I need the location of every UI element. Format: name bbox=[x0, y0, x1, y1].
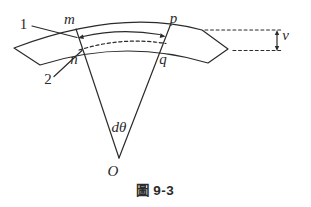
label-point-p: p bbox=[169, 10, 178, 26]
label-center-O: O bbox=[108, 163, 119, 179]
curved-beam-diagram: 1 2 m n p q dθ O v 圖 9-3 bbox=[0, 0, 311, 207]
fiber-double-arrow-arc bbox=[83, 32, 160, 37]
neutral-axis-dashed-arc bbox=[79, 41, 166, 50]
arrowheads bbox=[78, 30, 279, 51]
label-callout-2: 2 bbox=[44, 71, 52, 87]
cross-section-mn-line bbox=[76, 29, 119, 158]
figure-caption: 圖 9-3 bbox=[136, 183, 175, 198]
label-callout-1: 1 bbox=[20, 16, 28, 32]
label-point-n: n bbox=[70, 51, 78, 67]
beam-element-outline bbox=[14, 22, 228, 65]
fiber-arrow-right-icon bbox=[160, 33, 166, 38]
cross-section-pq-line bbox=[119, 26, 170, 158]
label-point-q: q bbox=[159, 51, 167, 67]
label-angle-dtheta: dθ bbox=[112, 119, 128, 135]
leader-line-2 bbox=[54, 51, 82, 77]
label-offset-v: v bbox=[282, 27, 289, 43]
figure-9-3: 1 2 m n p q dθ O v 圖 9-3 bbox=[0, 0, 311, 207]
diagram-linework bbox=[14, 22, 281, 158]
leader-line-1 bbox=[32, 26, 77, 38]
diagram-labels: 1 2 m n p q dθ O v 圖 9-3 bbox=[20, 10, 289, 198]
v-arrow-up-icon bbox=[275, 30, 279, 35]
label-point-m: m bbox=[64, 11, 75, 27]
